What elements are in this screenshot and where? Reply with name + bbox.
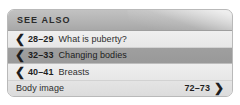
reference-title: Changing bodies: [59, 50, 127, 60]
see-also-box: SEE ALSO ❮ 28–29 What is puberty? ❮ 32–3…: [7, 9, 233, 97]
chevron-left-icon: ❮: [15, 33, 25, 45]
see-also-header-label: SEE ALSO: [8, 15, 71, 25]
see-also-header: SEE ALSO: [8, 10, 232, 31]
reference-title: Body image: [16, 83, 64, 93]
page-range: 72–73: [184, 83, 210, 93]
reference-title: Breasts: [59, 67, 90, 77]
page-range: 28–29: [28, 34, 54, 44]
chevron-left-icon: ❮: [15, 66, 25, 78]
reference-title: What is puberty?: [59, 34, 127, 44]
cross-reference-list: ❮ 28–29 What is puberty? ❮ 32–33 Changin…: [8, 31, 232, 96]
list-item[interactable]: Body image 72–73 ❯: [8, 81, 232, 97]
chevron-right-icon: ❯: [214, 82, 224, 94]
list-item[interactable]: ❮ 28–29 What is puberty?: [8, 31, 232, 48]
chevron-left-icon: ❮: [15, 49, 25, 61]
page-range: 32–33: [28, 50, 54, 60]
list-item[interactable]: ❮ 40–41 Breasts: [8, 64, 232, 81]
page-range: 40–41: [28, 67, 54, 77]
list-item[interactable]: ❮ 32–33 Changing bodies: [8, 48, 232, 65]
